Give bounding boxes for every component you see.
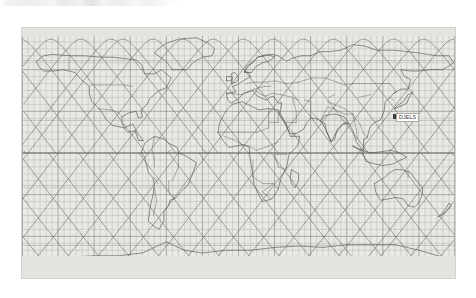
map-canvas[interactable] [22,28,455,278]
screenshot-root: DJELS [0,0,476,298]
world-map[interactable]: DJELS [22,28,455,278]
satellite-label[interactable]: DJELS [396,113,419,122]
toolbar-strip [0,0,476,6]
